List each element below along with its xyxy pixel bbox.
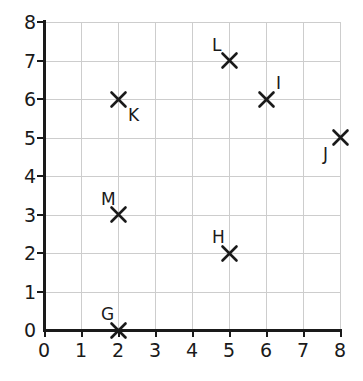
y-axis-tick — [37, 137, 44, 139]
gridline-horizontal — [44, 176, 340, 177]
y-axis-tick-label: 5 — [4, 129, 36, 148]
plot-area: GHIJKLM — [44, 22, 340, 330]
x-axis-tick-label: 2 — [105, 341, 131, 360]
data-point-label-m: M — [101, 191, 116, 208]
y-axis-tick — [37, 21, 44, 23]
gridline-vertical — [340, 22, 341, 330]
x-axis-tick — [229, 330, 231, 337]
y-axis-tick — [37, 252, 44, 254]
y-axis-tick-label: 2 — [4, 244, 36, 263]
gridline-horizontal — [44, 138, 340, 139]
y-axis-tick — [37, 175, 44, 177]
y-axis-tick-label: 4 — [4, 167, 36, 186]
gridline-horizontal — [44, 292, 340, 293]
data-point-label-j: J — [323, 146, 328, 163]
x-axis-tick-label: 7 — [290, 341, 316, 360]
data-point-label-g: G — [101, 306, 114, 323]
y-axis-tick-label: 6 — [4, 90, 36, 109]
data-point-label-i: I — [276, 75, 281, 92]
y-axis-tick — [37, 60, 44, 62]
y-axis-tick-label: 7 — [4, 52, 36, 71]
y-axis-tick — [37, 214, 44, 216]
gridline-horizontal — [44, 22, 340, 23]
x-axis-tick-label: 4 — [179, 341, 205, 360]
x-axis-tick — [266, 330, 268, 337]
data-point-marker — [109, 90, 128, 109]
x-axis-tick-label: 3 — [142, 341, 168, 360]
x-axis-tick — [303, 330, 305, 337]
scatter-plot: GHIJKLM 012345678 012345678 — [0, 0, 363, 381]
x-axis-tick — [340, 330, 342, 337]
y-axis-tick — [37, 98, 44, 100]
gridline-horizontal — [44, 99, 340, 100]
x-axis-tick-label: 8 — [327, 341, 353, 360]
x-axis-tick-label: 5 — [216, 341, 242, 360]
y-axis-tick-label: 0 — [4, 321, 36, 340]
x-axis-tick — [81, 330, 83, 337]
x-axis-tick — [118, 330, 120, 337]
data-point-marker — [220, 51, 239, 70]
data-point-label-h: H — [212, 229, 225, 246]
x-axis-tick-label: 6 — [253, 341, 279, 360]
x-axis-tick — [192, 330, 194, 337]
x-axis-tick-label: 0 — [31, 341, 57, 360]
y-axis-tick-label: 1 — [4, 283, 36, 302]
y-axis-tick — [37, 291, 44, 293]
gridline-horizontal — [44, 61, 340, 62]
x-axis-tick — [44, 330, 46, 337]
data-point-marker — [257, 90, 276, 109]
gridline-horizontal — [44, 215, 340, 216]
x-axis-tick-label: 1 — [68, 341, 94, 360]
gridline-horizontal — [44, 253, 340, 254]
data-point-label-k: K — [128, 107, 139, 124]
y-axis-tick-label: 8 — [4, 13, 36, 32]
data-point-label-l: L — [212, 37, 221, 54]
y-axis-tick-label: 3 — [4, 206, 36, 225]
data-point-marker — [331, 128, 350, 147]
x-axis-tick — [155, 330, 157, 337]
